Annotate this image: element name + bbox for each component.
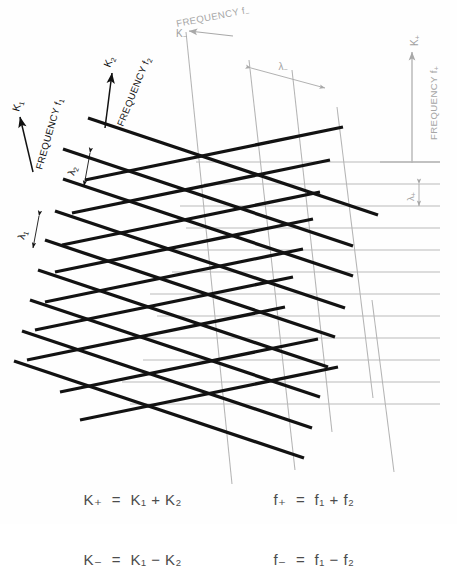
equation-row-minus: K₋ = K₁ − K₂f₋ = f₁ − f₂ — [0, 530, 457, 570]
equation-k-minus: K₋ = K₁ − K₂ — [62, 550, 264, 570]
equation-f-minus: f₋ = f₁ − f₂ — [264, 550, 424, 570]
equation-k-plus: K₊ = K₁ + K₂ — [62, 490, 264, 510]
equation-row-plus: K₊ = K₁ + K₂f₊ = f₁ + f₂ — [0, 470, 457, 530]
equation-f-plus: f₊ = f₁ + f₂ — [264, 490, 424, 510]
kplus-frequency-label: FREQUENCY f+ — [428, 66, 440, 140]
equations-block: K₊ = K₁ + K₂f₊ = f₁ + f₂ K₋ = K₁ − K₂f₋ … — [0, 470, 457, 570]
